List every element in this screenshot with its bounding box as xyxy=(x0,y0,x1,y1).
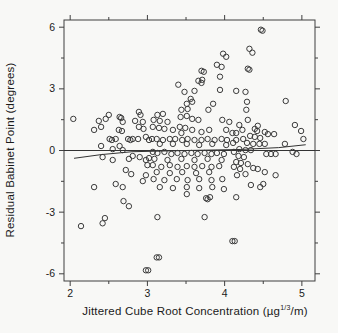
data-point xyxy=(157,118,162,123)
data-point xyxy=(241,154,246,159)
data-point xyxy=(210,184,215,189)
data-point xyxy=(237,122,242,127)
data-point xyxy=(245,117,250,122)
data-point xyxy=(260,28,265,33)
data-point xyxy=(157,184,162,189)
x-axis-title-text: Jittered Cube Root Concentration (µg xyxy=(82,305,280,317)
data-point xyxy=(132,118,137,123)
data-point xyxy=(162,177,167,182)
data-point xyxy=(155,214,160,219)
data-point xyxy=(98,124,103,129)
data-point xyxy=(169,151,174,156)
data-point xyxy=(184,184,189,189)
data-point xyxy=(137,154,142,159)
data-point xyxy=(179,156,184,161)
data-point xyxy=(192,88,197,93)
data-point xyxy=(202,150,207,155)
data-point xyxy=(126,156,131,161)
data-point xyxy=(178,114,183,119)
data-point xyxy=(301,136,306,141)
x-tick-label: 2 xyxy=(67,287,73,299)
y-tick-label: 3 xyxy=(49,82,55,94)
data-point xyxy=(234,195,239,200)
data-point xyxy=(184,163,189,168)
data-point xyxy=(193,170,198,175)
data-point xyxy=(197,185,202,190)
data-point xyxy=(282,141,287,146)
data-point xyxy=(140,178,145,183)
data-point xyxy=(209,164,214,169)
data-point xyxy=(189,150,194,155)
data-point xyxy=(202,214,207,219)
data-point xyxy=(121,198,126,203)
data-point xyxy=(197,176,202,181)
data-point xyxy=(185,177,190,182)
data-point xyxy=(243,89,248,94)
data-point xyxy=(214,150,219,155)
data-point xyxy=(170,141,175,146)
y-axis-title: Residual Babinet Point (degrees) xyxy=(4,20,20,280)
data-point xyxy=(165,119,170,124)
data-point xyxy=(71,116,76,121)
data-point xyxy=(179,130,184,135)
data-point xyxy=(237,166,242,171)
data-point xyxy=(159,164,164,169)
data-point xyxy=(207,127,212,132)
data-point xyxy=(205,136,210,141)
data-point xyxy=(243,171,248,176)
y-tick-label: -6 xyxy=(46,267,55,279)
data-point xyxy=(165,157,170,162)
data-point xyxy=(154,169,159,174)
data-point xyxy=(126,204,131,209)
data-point xyxy=(196,117,201,122)
data-point xyxy=(236,153,241,158)
data-point xyxy=(190,127,195,132)
data-point xyxy=(176,82,181,87)
y-tick-label: 6 xyxy=(49,21,55,33)
data-point xyxy=(234,130,239,135)
data-point xyxy=(100,221,105,226)
data-point xyxy=(179,107,184,112)
data-point xyxy=(192,157,197,162)
data-point xyxy=(130,153,135,158)
data-point xyxy=(220,51,225,56)
data-point xyxy=(167,162,172,167)
data-point xyxy=(180,137,185,142)
data-point xyxy=(177,124,182,129)
data-point xyxy=(224,137,229,142)
data-point xyxy=(167,136,172,141)
scatter-figure: 2345-6-3036 Residual Babinet Point (degr… xyxy=(0,0,338,333)
x-axis-title: Jittered Cube Root Concentration (µg1/3/… xyxy=(55,305,335,317)
data-point xyxy=(257,141,262,146)
data-point xyxy=(140,119,145,124)
data-point xyxy=(221,151,226,156)
data-point xyxy=(210,101,215,106)
data-point xyxy=(182,89,187,94)
data-point xyxy=(205,156,210,161)
data-point xyxy=(219,136,224,141)
y-tick-label: -3 xyxy=(46,206,55,218)
data-point xyxy=(247,67,252,72)
data-point xyxy=(262,141,267,146)
data-point xyxy=(255,123,260,128)
data-point xyxy=(100,154,105,159)
data-point xyxy=(244,99,249,104)
data-point xyxy=(224,54,229,59)
data-point xyxy=(199,129,204,134)
data-point xyxy=(190,116,195,121)
x-tick-label: 3 xyxy=(144,287,150,299)
x-tick-label: 5 xyxy=(299,287,305,299)
data-point xyxy=(143,173,148,178)
data-point xyxy=(151,117,156,122)
data-point xyxy=(143,134,148,139)
data-point xyxy=(192,137,197,142)
data-point xyxy=(197,142,202,147)
data-point xyxy=(217,74,222,79)
data-point xyxy=(150,124,155,129)
x-axis-title-superscript: 1/3 xyxy=(280,304,290,311)
data-point xyxy=(209,151,214,156)
data-point xyxy=(217,87,222,92)
data-point xyxy=(183,125,188,130)
data-point xyxy=(98,143,103,148)
y-tick-label: 0 xyxy=(49,144,55,156)
